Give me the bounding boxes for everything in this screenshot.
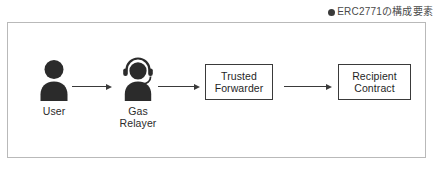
diagram-caption-text: ERC2771の構成要素 [337,6,433,18]
person-icon [32,59,76,101]
person-headset-icon [116,56,160,101]
node-gas-relayer-label: Gas Relayer [120,106,157,129]
node-trusted-forwarder: Trusted Forwarder [205,64,273,100]
node-recipient-contract: Recipient Contract [338,64,411,100]
diagram-frame: User [7,22,426,158]
arrow-head [326,84,332,90]
arrow-head [194,84,200,90]
arrow-shaft [284,86,327,87]
bullet-dot-icon [328,9,335,16]
arrow-forwarder-to-recipient [284,82,332,91]
arrow-shaft [158,86,195,87]
diagram-flow: User [8,23,425,157]
diagram-caption: ERC2771の構成要素 [328,5,433,19]
arrow-relayer-to-forwarder [158,82,200,91]
node-trusted-forwarder-label: Trusted Forwarder [215,70,264,94]
node-gas-relayer: Gas Relayer [101,56,175,129]
node-user-label: User [43,106,66,118]
node-recipient-contract-label: Recipient Contract [352,70,397,94]
